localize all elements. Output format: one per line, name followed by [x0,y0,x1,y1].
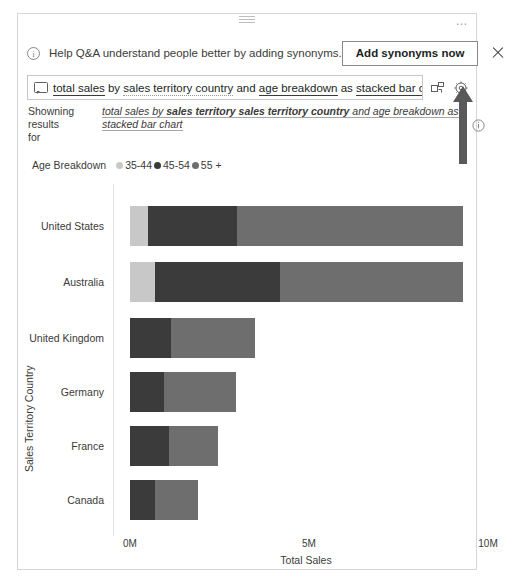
legend-label: 55 + [201,159,222,171]
legend: Age Breakdown 35-4445-5455 + [32,159,224,171]
legend-item-55-[interactable]: 55 + [192,159,222,171]
cut-off-top-strip: · · · [0,0,495,12]
chart-plot: Sales Territory Country United StatesAus… [18,182,478,570]
legend-items: 35-4445-5455 + [116,159,223,171]
info-icon-right[interactable] [472,118,485,131]
category-label: United Kingdom [18,332,110,344]
bar-segment[interactable] [155,480,198,520]
showing-results: Showning resultsfor total sales by sales… [28,105,470,144]
legend-item-45-54[interactable]: 45-54 [154,159,190,171]
legend-swatch [116,162,123,169]
pin-visual-icon[interactable] [430,80,446,96]
legend-item-35-44[interactable]: 35-44 [116,159,152,171]
category-label: Germany [18,386,110,398]
category-label: Australia [18,276,110,288]
bar-segment[interactable] [148,206,238,246]
bar-stack [130,372,236,412]
query-segment: by [105,82,124,94]
bar-segment[interactable] [130,372,164,412]
more-options-button[interactable]: … [455,15,469,27]
bar-row[interactable]: Canada [18,480,478,520]
bar-segment[interactable] [130,426,169,466]
bar-segment[interactable] [171,318,255,358]
synonyms-banner: i Help Q&A understand people better by a… [27,36,469,70]
bar-row[interactable]: Germany [18,372,478,412]
bar-stack [130,426,218,466]
legend-label: 35-44 [125,159,152,171]
synonyms-message: Help Q&A understand people better by add… [49,47,342,59]
showing-results-query[interactable]: total sales by sales territory sales ter… [102,105,470,144]
bar-stack [130,206,463,246]
add-synonyms-button[interactable]: Add synonyms now [342,41,479,66]
x-axis: 0M5M10M Total Sales [18,538,478,568]
bar-segment[interactable] [164,372,236,412]
showing-results-part: sales territory sales territory country [166,105,349,118]
bar-segment[interactable] [169,426,217,466]
x-tick-label: 5M [302,538,316,549]
category-label: United States [18,220,110,232]
bar-segment[interactable] [130,480,155,520]
x-axis-title: Total Sales [280,554,331,566]
query-segment: stacked bar chart [356,82,423,96]
query-segment: sales territory country [123,82,233,96]
bar-segment[interactable] [130,206,148,246]
showing-results-part: total sales by [102,105,166,118]
ghost-text: · · · [0,0,18,4]
bar-row[interactable]: United Kingdom [18,318,478,358]
showing-results-label: Showning resultsfor [28,105,102,144]
up-arrow-annotation [452,86,474,164]
bar-segment[interactable] [155,262,280,302]
query-segment: and [233,82,259,94]
bar-stack [130,480,198,520]
query-segment: total sales [53,82,105,96]
query-row: total sales by sales territory country a… [27,75,469,100]
bar-stack [130,262,463,302]
info-icon: i [27,47,40,60]
bar-segment[interactable] [280,262,463,302]
drag-handle[interactable] [239,16,255,23]
legend-title: Age Breakdown [32,159,106,171]
category-label: France [18,440,110,452]
card-header: … [18,14,476,34]
speech-bubble-icon [34,82,48,93]
query-segment: as [338,82,357,94]
bar-row[interactable]: United States [18,206,478,246]
legend-label: 45-54 [163,159,190,171]
qna-visual-card: … i Help Q&A understand people better by… [17,13,477,570]
query-input[interactable]: total sales by sales territory country a… [27,75,423,100]
category-label: Canada [18,494,110,506]
bar-segment[interactable] [237,206,463,246]
bar-segment[interactable] [130,262,155,302]
x-tick-label: 10M [478,538,497,549]
bar-row[interactable]: Australia [18,262,478,302]
legend-swatch [154,162,161,169]
legend-swatch [192,162,199,169]
bar-stack [130,318,255,358]
x-tick-label: 0M [123,538,137,549]
query-text: total sales by sales territory country a… [53,82,423,94]
bar-row[interactable]: France [18,426,478,466]
query-segment: age breakdown [259,82,338,96]
bar-segment[interactable] [130,318,171,358]
close-icon[interactable] [491,46,505,60]
